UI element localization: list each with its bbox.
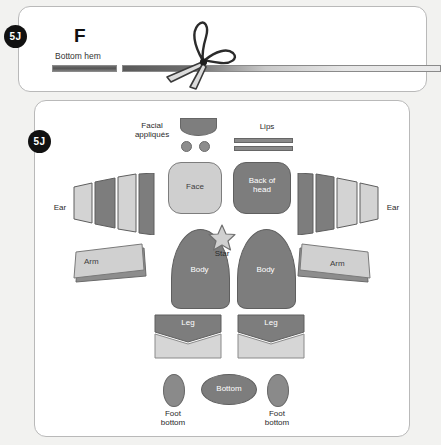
facial-appliques-label: Facial appliqués bbox=[126, 121, 178, 139]
foot-bottom-left-label: Foot bottom bbox=[148, 409, 198, 427]
piece-foot-bottom-left bbox=[163, 374, 185, 407]
scissors-icon bbox=[157, 15, 243, 93]
hem-strip-short bbox=[52, 65, 117, 72]
piece-ear-left bbox=[72, 173, 158, 235]
foot-bottom-right-label: Foot bottom bbox=[252, 409, 302, 427]
facial-applique-dome bbox=[180, 118, 217, 136]
piece-arm-right bbox=[296, 242, 372, 292]
ear-right-label: Ear bbox=[382, 203, 404, 212]
piece-leg-left bbox=[154, 314, 222, 359]
facial-applique-dot-right bbox=[199, 141, 210, 152]
piece-back-of-head bbox=[233, 162, 291, 214]
bottom-hem-label: Bottom hem bbox=[55, 51, 101, 61]
piece-star bbox=[208, 224, 236, 251]
lips-label: Lips bbox=[243, 122, 291, 131]
star-label: Star bbox=[207, 249, 237, 258]
lip-strip-top bbox=[234, 138, 293, 143]
step-badge-main: 5J bbox=[28, 130, 51, 153]
piece-ear-right bbox=[294, 173, 380, 235]
panel-letter-f: F bbox=[74, 25, 86, 47]
piece-face bbox=[168, 162, 222, 214]
step-badge-top: 5J bbox=[4, 25, 27, 48]
facial-applique-dot-left bbox=[181, 141, 192, 152]
lip-strip-bottom bbox=[234, 146, 293, 151]
ear-left-label: Ear bbox=[49, 203, 71, 212]
panel-bottom-hem: F Bottom hem bbox=[18, 6, 427, 92]
piece-foot-bottom-right bbox=[267, 374, 289, 407]
piece-arm-left bbox=[72, 242, 148, 292]
piece-leg-right bbox=[237, 314, 305, 359]
piece-bottom bbox=[201, 374, 257, 405]
